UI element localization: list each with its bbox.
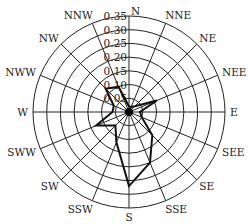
direction-label: NNW: [64, 9, 93, 21]
direction-label: NE: [199, 32, 216, 44]
direction-label: W: [17, 106, 28, 118]
radial-tick-label: 0.30: [104, 24, 127, 36]
radial-tick-label: 0.15: [104, 65, 127, 77]
direction-label: SSE: [165, 203, 187, 215]
center-dot: [125, 108, 133, 116]
direction-label: N: [131, 5, 140, 17]
direction-label: NWW: [5, 66, 36, 78]
grid-spoke: [61, 112, 129, 180]
direction-label: SSW: [68, 203, 93, 215]
direction-label: S: [125, 211, 132, 223]
direction-label: SE: [199, 180, 214, 192]
wind-rose-svg: NNNENENEEESEESESSESSSWSWSWWWNWWNWNNW0.05…: [0, 0, 248, 224]
direction-label: SW: [41, 180, 59, 192]
radial-tick-label: 0.25: [104, 37, 127, 49]
radial-tick-label: 0.35: [104, 10, 127, 22]
direction-label: SEE: [222, 146, 245, 158]
direction-label: E: [230, 106, 238, 118]
direction-label: NNE: [165, 9, 191, 21]
grid-spoke: [129, 112, 197, 180]
radial-tick-label: 0.20: [104, 51, 127, 63]
direction-label: NW: [39, 32, 59, 44]
grid-spoke: [129, 44, 197, 112]
wind-rose-chart: NNNENENEEESEESESSESSSWSWSWWWNWWNWNNW0.05…: [0, 0, 248, 224]
direction-label: NEE: [222, 66, 247, 78]
direction-label: SWW: [7, 146, 36, 158]
